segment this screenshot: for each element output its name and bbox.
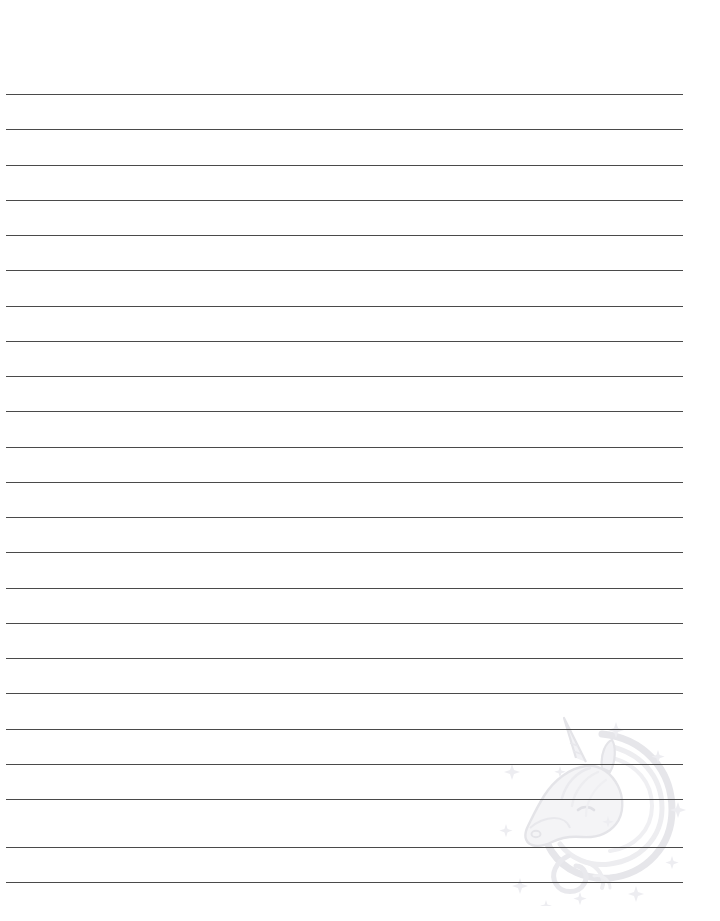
rule-line	[6, 200, 683, 201]
rule-line	[6, 411, 683, 412]
rule-line	[6, 235, 683, 236]
rule-line	[6, 764, 683, 765]
unicorn-horn-group	[564, 718, 586, 762]
unicorn-watermark	[490, 706, 690, 906]
unicorn-mane-strands-group	[562, 768, 606, 816]
rule-line	[6, 882, 683, 883]
rule-line	[6, 517, 683, 518]
rule-line	[6, 306, 683, 307]
rule-line	[6, 799, 683, 800]
rule-line	[6, 165, 683, 166]
unicorn-star-sparkles-group	[499, 722, 686, 906]
rule-line	[6, 94, 683, 95]
unicorn-tail-curl-group	[554, 856, 610, 892]
rule-line	[6, 552, 683, 553]
ruled-writing-lines	[0, 0, 720, 921]
rule-line	[6, 658, 683, 659]
rule-line	[6, 270, 683, 271]
unicorn-head-group	[525, 766, 622, 846]
rule-line	[6, 588, 683, 589]
unicorn-watermark-graphic	[490, 706, 690, 906]
rule-line	[6, 847, 683, 848]
rule-line	[6, 376, 683, 377]
rule-line	[6, 447, 683, 448]
rule-line	[6, 129, 683, 130]
lined-paper-page	[0, 0, 720, 921]
rule-line	[6, 729, 683, 730]
unicorn-mane-swirl-group	[546, 734, 672, 878]
rule-line	[6, 623, 683, 624]
rule-line	[6, 482, 683, 483]
rule-line	[6, 341, 683, 342]
unicorn-ear-group	[602, 740, 615, 772]
rule-line	[6, 693, 683, 694]
